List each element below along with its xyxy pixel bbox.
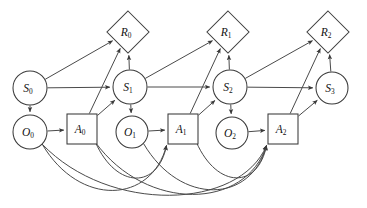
node-s3[interactable]: S3: [316, 72, 348, 104]
node-a2[interactable]: A2: [268, 114, 298, 144]
edge-a0-to-s1: [98, 100, 115, 115]
edge-s0-to-r0: [45, 41, 112, 80]
node-s0-subscript: 0: [29, 87, 33, 96]
node-o2[interactable]: O2: [216, 117, 248, 149]
edge-s2-to-r2: [245, 41, 312, 79]
page-corner-mark: [6, 3, 8, 12]
edge-a1-to-s2: [199, 100, 215, 115]
node-o2-subscript: 2: [232, 132, 236, 141]
edge-a0-to-a2: [96, 143, 267, 195]
edge-o0-to-a0: [47, 130, 63, 131]
node-o0-subscript: 0: [30, 131, 34, 140]
node-r2[interactable]: R2: [307, 11, 349, 53]
edge-s0-to-s1: [47, 87, 109, 88]
node-r0-subscript: 0: [128, 31, 132, 40]
node-s2[interactable]: S2: [213, 70, 247, 104]
edge-s1-to-r1: [145, 41, 212, 79]
edge-s2-to-r1: [229, 55, 230, 69]
edge-s3-to-r2: [330, 55, 331, 72]
edge-o1-to-a2: [144, 144, 267, 190]
node-a1-subscript: 1: [183, 128, 187, 137]
node-s2-subscript: 2: [229, 86, 233, 95]
node-a0[interactable]: A0: [67, 114, 97, 144]
node-s3-subscript: 3: [331, 87, 335, 96]
node-r2-subscript: 2: [328, 31, 332, 40]
node-o1[interactable]: O1: [116, 116, 148, 148]
node-r1[interactable]: R1: [207, 11, 249, 53]
node-r1-subscript: 1: [228, 31, 232, 40]
edge-s1-to-r0: [129, 55, 130, 69]
node-s1-subscript: 1: [129, 86, 133, 95]
node-a2-subscript: 2: [283, 128, 287, 137]
edge-a2-to-s3: [299, 100, 318, 116]
node-s1[interactable]: S1: [113, 70, 147, 104]
edge-a2-to-r2: [290, 49, 320, 114]
node-s0[interactable]: S0: [13, 71, 47, 105]
node-r0[interactable]: R0: [107, 11, 149, 53]
influence-diagram-svg: S0S1S2S3O0O1O2A0A1A2R0R1R2: [0, 0, 367, 208]
node-o1-subscript: 1: [132, 131, 136, 140]
diagram-canvas: S0S1S2S3O0O1O2A0A1A2R0R1R2: [0, 0, 367, 208]
node-a1[interactable]: A1: [168, 114, 198, 144]
node-o0[interactable]: O0: [13, 115, 47, 149]
node-layer: S0S1S2S3O0O1O2A0A1A2R0R1R2: [13, 11, 349, 149]
edge-o1-to-a1: [148, 130, 164, 131]
edge-o2-to-a2: [248, 130, 264, 131]
node-a0-subscript: 0: [82, 128, 86, 137]
edge-s2-to-s3: [247, 87, 312, 88]
